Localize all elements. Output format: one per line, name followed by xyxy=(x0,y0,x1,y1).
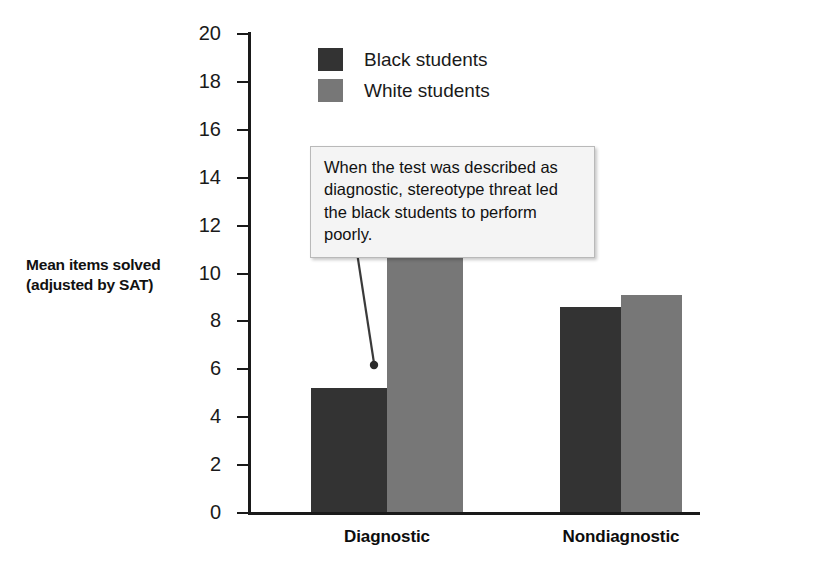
legend-label-black-students: Black students xyxy=(364,49,488,71)
y-tick-2: 2 xyxy=(237,464,248,466)
legend-swatch-icon-black-students xyxy=(318,48,343,71)
legend-item-black-students: Black students xyxy=(318,44,490,75)
y-tick-label-12: 12 xyxy=(199,215,221,235)
y-axis-title: Mean items solved (adjusted by SAT) xyxy=(26,255,226,295)
y-tick-20: 20 xyxy=(237,33,248,35)
y-tick-4: 4 xyxy=(237,416,248,418)
y-tick-label-10: 10 xyxy=(199,263,221,283)
y-tick-label-18: 18 xyxy=(199,71,221,91)
bar-nondiagnostic-white-students xyxy=(621,295,682,512)
y-tick-label-0: 0 xyxy=(210,502,221,522)
y-tick-0: 0 xyxy=(237,512,248,514)
legend-swatch-icon-white-students xyxy=(318,79,343,102)
y-axis-line xyxy=(248,32,251,513)
x-axis-label-diagnostic: Diagnostic xyxy=(344,527,430,547)
annotation-callout: When the test was described as diagnosti… xyxy=(310,146,595,258)
y-tick-14: 14 xyxy=(237,177,248,179)
legend-item-white-students: White students xyxy=(318,75,490,106)
y-axis-title-line-1: Mean items solved xyxy=(26,255,226,275)
y-tick-16: 16 xyxy=(237,129,248,131)
annotation-text: When the test was described as diagnosti… xyxy=(324,156,582,246)
x-axis-label-nondiagnostic: Nondiagnostic xyxy=(563,527,680,547)
y-tick-label-6: 6 xyxy=(210,358,221,378)
y-tick-18: 18 xyxy=(237,81,248,83)
bar-nondiagnostic-black-students xyxy=(560,307,621,512)
bar-diagnostic-black-students xyxy=(311,388,387,513)
y-tick-8: 8 xyxy=(237,320,248,322)
chart-legend: Black students White students xyxy=(318,44,490,106)
legend-label-white-students: White students xyxy=(364,80,490,102)
y-tick-10: 10 xyxy=(237,273,248,275)
y-tick-label-2: 2 xyxy=(210,454,221,474)
y-tick-label-16: 16 xyxy=(199,119,221,139)
bar-diagnostic-white-students xyxy=(387,253,463,512)
y-tick-label-14: 14 xyxy=(199,167,221,187)
y-tick-label-20: 20 xyxy=(199,23,221,43)
y-tick-label-8: 8 xyxy=(210,310,221,330)
x-axis-line xyxy=(248,512,700,515)
y-tick-6: 6 xyxy=(237,368,248,370)
y-tick-12: 12 xyxy=(237,225,248,227)
bar-chart-figure: Mean items solved (adjusted by SAT) 20 1… xyxy=(0,0,840,566)
y-tick-label-4: 4 xyxy=(210,406,221,426)
y-axis-title-line-2: (adjusted by SAT) xyxy=(26,275,226,295)
